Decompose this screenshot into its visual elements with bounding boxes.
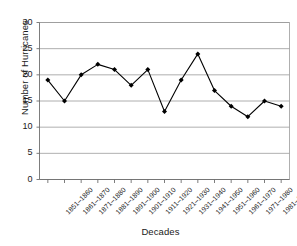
hurricane-line-chart: Number of Hurricanes Decades 05101520253… <box>0 0 297 246</box>
axis-ticks <box>37 23 282 184</box>
data-point-markers <box>45 51 283 119</box>
data-point-marker <box>279 104 284 109</box>
gridlines <box>40 23 290 180</box>
data-series-line <box>48 54 281 117</box>
data-point-marker <box>162 109 167 114</box>
plot-area <box>0 0 297 246</box>
data-point-marker <box>95 62 100 67</box>
